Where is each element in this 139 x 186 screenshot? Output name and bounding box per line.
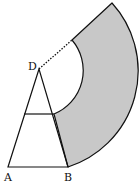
label-a: A: [3, 171, 13, 184]
shaded-annular-sector: [54, 3, 138, 167]
label-b: B: [64, 171, 72, 184]
geometry-diagram: D A B: [0, 0, 139, 186]
dotted-radius-line: [39, 40, 72, 69]
label-d: D: [28, 60, 37, 73]
